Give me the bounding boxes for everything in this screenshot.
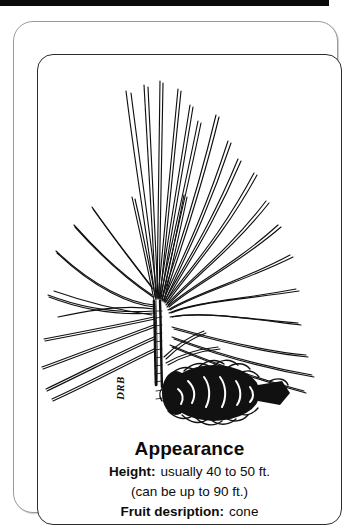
caption-row-height-value: usually 40 to 50 ft. xyxy=(160,464,270,479)
caption-row-height-note-value: (can be up to 90 ft.) xyxy=(131,484,248,499)
caption-row-fruit: Fruit desription:cone xyxy=(38,502,341,521)
caption-row-height: Height:usually 40 to 50 ft. xyxy=(38,462,341,481)
caption-title: Appearance xyxy=(38,437,341,461)
card-outer-frame: DRB Appearance Height:usually 40 to 50 f… xyxy=(13,21,338,513)
screenshot-root: DRB Appearance Height:usually 40 to 50 f… xyxy=(0,0,350,528)
caption-row-height-label: Height: xyxy=(109,464,156,479)
caption-row-fruit-value: cone xyxy=(229,504,258,519)
card-inner-frame: DRB Appearance Height:usually 40 to 50 f… xyxy=(37,54,342,525)
caption-block: Appearance Height:usually 40 to 50 ft. (… xyxy=(38,437,341,521)
pine-branch-illustration xyxy=(38,55,341,435)
caption-row-fruit-label: Fruit desription: xyxy=(121,504,225,519)
artist-signature: DRB xyxy=(114,376,126,400)
caption-row-height-note: (can be up to 90 ft.) xyxy=(38,482,341,501)
top-black-bar xyxy=(0,0,329,6)
